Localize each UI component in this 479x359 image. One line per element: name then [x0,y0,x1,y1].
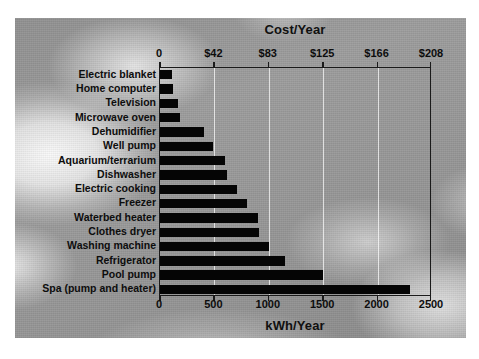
top-axis-tick-label: $83 [259,47,277,59]
category-label: Electric blanket [10,69,156,80]
energy-use-bar-chart-figure: Cost/Year 0$42$83$125$166$208 Electric b… [0,0,479,359]
category-axis-labels: Electric blanketHome computerTelevisionM… [10,67,156,296]
category-label: Aquarium/terrarium [10,155,156,166]
bar[interactable] [160,185,237,194]
category-label: Waterbed heater [10,212,156,223]
bar[interactable] [160,142,213,151]
category-label: Refrigerator [10,255,156,266]
top-axis-tick-label: $125 [310,47,334,59]
bar[interactable] [160,127,204,136]
bar[interactable] [160,270,323,279]
bar[interactable] [160,84,173,93]
bottom-axis-tick-label: 0 [156,298,162,310]
category-label: Well pump [10,140,156,151]
bar-series [160,68,430,295]
bar[interactable] [160,199,247,208]
top-axis-tick-label: $208 [419,47,443,59]
category-label: Electric cooking [10,183,156,194]
top-axis-tick-label: $42 [204,47,222,59]
category-label: Microwave oven [10,112,156,123]
plot-area [159,67,431,296]
category-label: Dishwasher [10,169,156,180]
category-label: Home computer [10,83,156,94]
top-axis-tick-label: $166 [364,47,388,59]
bar[interactable] [160,213,258,222]
bottom-axis-tick-label: 2500 [419,298,443,310]
bar[interactable] [160,99,178,108]
category-label: Television [10,97,156,108]
bottom-axis-tick-label: 1500 [310,298,334,310]
category-label: Pool pump [10,269,156,280]
top-axis-tick-label: 0 [156,47,162,59]
bar[interactable] [160,156,225,165]
top-axis-tick-labels: 0$42$83$125$166$208 [159,47,431,60]
top-axis-title: Cost/Year [159,22,431,37]
category-label: Clothes dryer [10,226,156,237]
category-label: Washing machine [10,240,156,251]
bar[interactable] [160,113,180,122]
bar[interactable] [160,242,269,251]
bottom-axis-tick-label: 1000 [256,298,280,310]
bar[interactable] [160,228,259,237]
category-label: Freezer [10,197,156,208]
bottom-axis-tick-label: 500 [204,298,222,310]
bottom-axis-title: kWh/Year [159,318,431,333]
bar[interactable] [160,170,227,179]
bar[interactable] [160,256,285,265]
bottom-axis-tick-labels: 05001000150020002500 [159,298,431,311]
bar[interactable] [160,285,410,294]
category-label: Spa (pump and heater) [10,283,156,294]
bottom-axis-tick-label: 2000 [364,298,388,310]
bar[interactable] [160,70,172,79]
category-label: Dehumidifier [10,126,156,137]
